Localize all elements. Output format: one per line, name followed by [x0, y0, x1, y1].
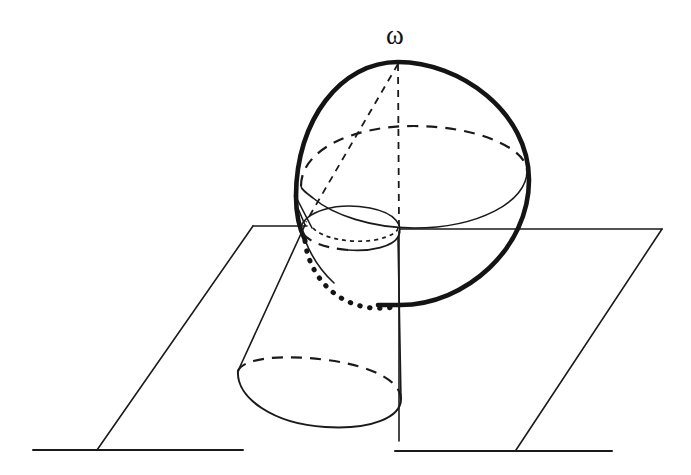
cone-top-ellipse	[300, 206, 400, 250]
cone-base-dashed	[238, 357, 401, 399]
apex-label-omega: ω	[386, 22, 404, 49]
geometry-drawing	[0, 0, 691, 475]
cone-top-ellipse-inner-dotted	[313, 228, 398, 241]
figure-canvas: ω	[0, 0, 691, 475]
plane-right-edge	[516, 229, 662, 450]
cone-hidden-slant	[306, 64, 398, 222]
cone-base-solid	[238, 371, 401, 427]
plane-left-edge	[97, 226, 253, 450]
sphere-arc-main	[296, 62, 529, 305]
cone-base-ellipse	[238, 357, 401, 427]
ground-plane	[33, 226, 662, 451]
equator-back-half	[301, 126, 527, 186]
intersection-curve	[305, 241, 398, 308]
cone-side-edges	[238, 206, 401, 399]
cone-slant-dashed	[306, 64, 398, 222]
sphere-cone-intersection-dotted	[305, 241, 398, 308]
axis-dashed-upper	[398, 64, 399, 226]
sphere-outline	[296, 62, 529, 305]
cone-left-edge	[238, 225, 305, 371]
equator-ellipse	[301, 126, 527, 228]
cone-top-ellipse-solid	[300, 206, 400, 250]
equator-front-half	[301, 171, 527, 228]
